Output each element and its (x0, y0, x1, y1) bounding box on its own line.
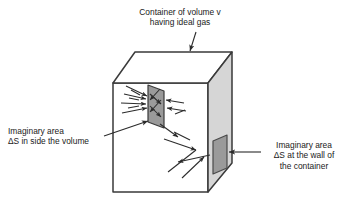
leader-line-top (190, 32, 196, 51)
label-wall-line3: the container (264, 161, 341, 171)
label-container-line1: Container of volume v (110, 7, 250, 17)
label-imaginary-area-wall: Imaginary area ΔS at the wall of the con… (264, 140, 341, 171)
label-inside-line2: ΔS in side the volume (8, 136, 120, 146)
label-wall-line1: Imaginary area (264, 140, 341, 150)
label-imaginary-area-inside: Imaginary area ΔS in side the volume (8, 126, 120, 147)
label-container-line2: having ideal gas (110, 17, 250, 27)
label-inside-line1: Imaginary area (8, 126, 120, 136)
label-container-of-volume: Container of volume v having ideal gas (110, 7, 250, 28)
physics-diagram-figure: Container of volume v having ideal gas I… (0, 0, 341, 203)
imaginary-area-wall-shape (213, 135, 227, 174)
label-wall-line2: ΔS at the wall of (264, 150, 341, 160)
diagram-canvas (0, 0, 341, 203)
